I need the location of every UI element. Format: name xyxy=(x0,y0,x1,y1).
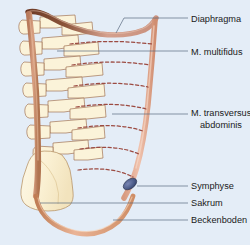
label-transversus-line1: M. transversus xyxy=(191,108,250,118)
diagram-canvas: Diaphragma M. multifidus M. transversus … xyxy=(0,0,250,245)
label-sakrum: Sakrum xyxy=(191,198,223,208)
label-transversus-line2: abdominis xyxy=(200,120,242,130)
label-symphyse: Symphyse xyxy=(191,181,234,191)
label-beckenboden: Beckenboden xyxy=(191,215,247,225)
label-multifidus: M. multifidus xyxy=(191,47,243,57)
anatomical-figure: Diaphragma M. multifidus M. transversus … xyxy=(0,0,250,245)
label-diaphragma: Diaphragma xyxy=(191,14,242,24)
